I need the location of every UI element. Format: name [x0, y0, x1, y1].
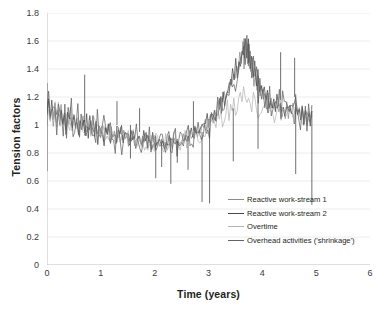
y-tick-1.2: 1.2 — [0, 92, 39, 102]
y-tick-1: 1 — [0, 120, 39, 130]
y-tick-0: 0 — [0, 260, 39, 270]
x-tick-4: 4 — [252, 268, 272, 278]
x-tick-0: 0 — [37, 268, 57, 278]
chart-legend: Reactive work-stream 1Reactive work-stre… — [228, 193, 380, 247]
y-tick-0.8: 0.8 — [0, 148, 39, 158]
x-tick-3: 3 — [199, 268, 219, 278]
x-tick-1: 1 — [91, 268, 111, 278]
legend-swatch-1 — [228, 199, 244, 200]
x-tick-5: 5 — [306, 268, 326, 278]
x-tick-2: 2 — [145, 268, 165, 278]
legend-item-3[interactable]: Overtime — [228, 220, 380, 234]
legend-item-1[interactable]: Reactive work-stream 1 — [228, 193, 380, 207]
chart-figure: Tension factors 00.20.40.60.811.21.41.61… — [0, 0, 384, 311]
legend-swatch-3 — [228, 226, 244, 227]
y-tick-1.6: 1.6 — [0, 36, 39, 46]
y-tick-0.4: 0.4 — [0, 204, 39, 214]
y-tick-1.4: 1.4 — [0, 64, 39, 74]
legend-label-2: Reactive work-stream 2 — [247, 209, 327, 218]
legend-swatch-4 — [228, 240, 244, 241]
y-axis-tick-labels: 00.20.40.60.811.21.41.61.8 — [0, 0, 43, 252]
legend-label-4: Overhead activities ('shrinkage') — [247, 236, 355, 245]
legend-label-1: Reactive work-stream 1 — [247, 195, 327, 204]
legend-item-4[interactable]: Overhead activities ('shrinkage') — [228, 234, 380, 248]
legend-label-3: Overtime — [247, 222, 278, 231]
y-tick-1.8: 1.8 — [0, 8, 39, 18]
x-axis-tick-labels: 0123456 — [47, 268, 370, 282]
x-axis-title: Time (years) — [47, 288, 370, 300]
x-tick-6: 6 — [360, 268, 380, 278]
legend-swatch-2 — [228, 213, 244, 214]
y-tick-0.2: 0.2 — [0, 232, 39, 242]
legend-item-2[interactable]: Reactive work-stream 2 — [228, 207, 380, 221]
y-tick-0.6: 0.6 — [0, 176, 39, 186]
series-line-4 — [47, 35, 312, 156]
